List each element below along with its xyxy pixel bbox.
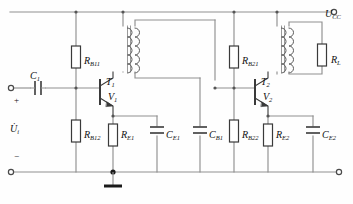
junction-dot [74,10,77,13]
label-rb22: RB22 [242,125,259,142]
terminal-output[interactable] [336,169,341,174]
wire-tr1-sec-bot [135,72,200,78]
terminal-input-positive[interactable] [8,85,13,90]
resistor-rl [318,44,327,66]
tr2-secondary-coil [289,28,294,73]
tr1-secondary-coil [135,28,140,73]
tr2-primary-coil [282,28,287,73]
label-ce2: CE2 [322,125,336,142]
label-v2: V2 [263,87,272,104]
label-re1: RE1 [121,125,134,142]
wire-layer [10,12,337,172]
resistor-rb22 [230,120,239,142]
label-re2: RE2 [276,125,289,142]
resistor-rb12 [72,120,81,142]
junction-dot [266,114,269,117]
label-rl: RL [331,50,341,67]
resistor-re1 [109,124,118,146]
label-vcc: UCC [325,4,341,21]
tr1-primary-coil [128,28,133,73]
input-polarity-minus: − [14,152,19,161]
label-cb1: CB1 [209,125,223,142]
schematic-canvas [0,0,353,204]
capacitor-ce2 [306,127,320,133]
label-ce1: CE1 [166,125,180,142]
junction-dot [121,10,124,13]
resistor-re2 [264,124,273,146]
label-rb11: RB11 [84,51,100,68]
label-rb12: RB12 [84,125,101,142]
junction-dot [74,86,77,89]
resistor-rb21 [230,46,239,68]
label-input-voltage: U̇i [10,119,19,136]
label-c1: C1 [30,66,40,83]
label-v1: V1 [108,87,117,104]
junction-dot [232,86,235,89]
capacitor-c1 [30,81,46,95]
input-polarity-plus: + [14,96,19,105]
terminal-input-negative[interactable] [8,169,13,174]
wire-tr1-sec-top [135,20,215,26]
junction-dot [232,10,235,13]
capacitor-ce1 [150,127,164,133]
junction-dot [213,86,216,89]
circuit-diagram-figure: UCC + − U̇i C1 RB11 RB12 RE1 CE1 CB1 RB2… [0,0,353,204]
capacitor-cb1 [193,127,207,133]
junction-dot [111,114,114,117]
ground-icon [104,172,122,186]
wire-tr2-sec-bot-to-rl [289,66,322,74]
resistor-rb11 [72,46,81,68]
junction-dot [275,10,278,13]
label-rb21: RB21 [242,51,259,68]
